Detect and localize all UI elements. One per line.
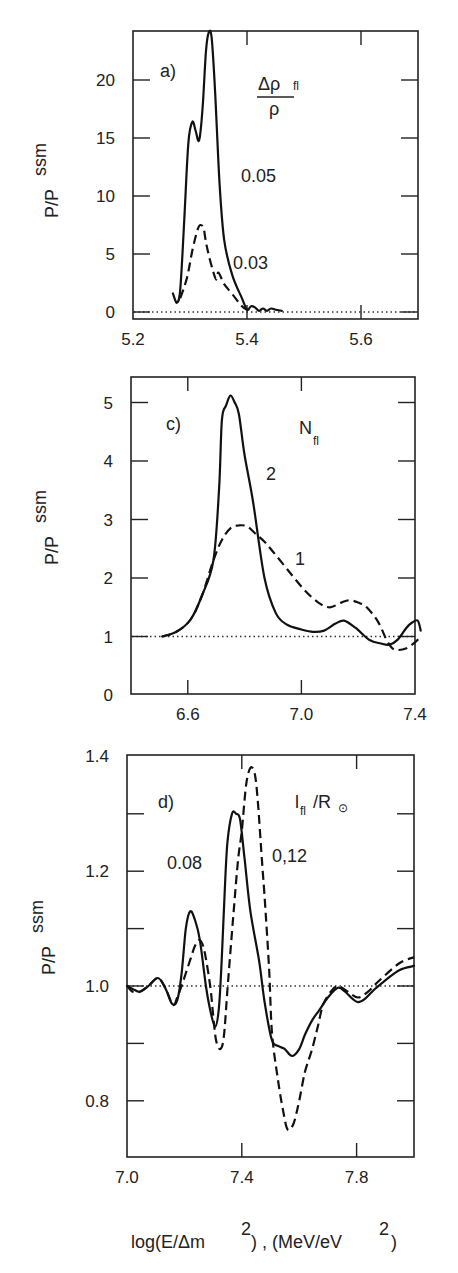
panel-d-frame <box>127 755 414 1157</box>
panel-d-ylabel: P/P ssm <box>27 900 59 975</box>
y-tick-label: 15 <box>96 129 115 148</box>
panel-d-series-0.12 <box>127 767 414 1130</box>
panel-a-ylabel: P/P ssm <box>30 143 62 218</box>
svg-text:2: 2 <box>241 1219 251 1239</box>
y-tick-label: 0.8 <box>85 1092 109 1111</box>
panel-c-legend-main: N <box>299 418 312 438</box>
panel-d: 7.07.47.80.81.01.21.4 d) l fl /R ⊙ 0.08 … <box>27 747 414 1187</box>
panel-c-ticks: 6.67.07.4012345 <box>104 377 427 724</box>
panel-c-legend-sub: fl <box>313 434 319 448</box>
panel-a-annotation-0.03: 0.03 <box>233 253 268 273</box>
y-tick-label: 4 <box>104 452 113 471</box>
x-tick-label: 7.4 <box>403 705 427 724</box>
svg-text:): ) <box>391 1232 397 1252</box>
y-tick-label: 20 <box>96 71 115 90</box>
panel-d-label: d) <box>158 792 174 812</box>
panel-a-label: a) <box>160 61 176 81</box>
x-tick-label: 6.6 <box>176 705 200 724</box>
x-axis-label: log(E/Δm 2 ) , (MeV/eV 2 ) <box>131 1219 397 1252</box>
panel-a-legend-denominator: ρ <box>269 99 279 119</box>
svg-text:ssm: ssm <box>30 490 50 523</box>
svg-text:P/P: P/P <box>42 189 62 218</box>
y-tick-label: 5 <box>104 394 113 413</box>
svg-text:2: 2 <box>379 1219 389 1239</box>
sun-symbol-icon: ⊙ <box>338 801 348 815</box>
x-tick-label: 7.8 <box>345 1168 369 1187</box>
y-tick-label: 1.4 <box>85 747 109 766</box>
panel-c-ylabel: P/P ssm <box>30 490 62 565</box>
panel-d-legend-rest: /R <box>313 792 331 812</box>
panel-a: 5.25.45.605101520 a) Δρ fl ρ 0.05 0.03 P… <box>30 31 418 349</box>
panel-c-annotation-2: 2 <box>266 464 276 484</box>
svg-text:) , (MeV/eV: ) , (MeV/eV <box>251 1232 342 1252</box>
y-tick-label: 10 <box>96 187 115 206</box>
svg-text:P/P: P/P <box>42 536 62 565</box>
panel-c-annotation-1: 1 <box>295 549 305 569</box>
panel-d-annotation-0.12: 0,12 <box>272 846 307 866</box>
y-tick-label: 1.0 <box>85 977 109 996</box>
panel-a-annotation-0.05: 0.05 <box>241 166 276 186</box>
panel-d-annotation-0.08: 0.08 <box>167 853 202 873</box>
x-tick-label: 5.4 <box>235 330 259 349</box>
y-tick-label: 5 <box>106 245 115 264</box>
svg-text:log(E/Δm: log(E/Δm <box>131 1232 205 1252</box>
panel-a-legend-sub: fl <box>293 79 299 93</box>
y-tick-label: 1.2 <box>85 862 109 881</box>
panel-d-legend-main: l <box>295 792 299 812</box>
panel-c: 6.67.07.4012345 c) N fl 2 1 P/P ssm <box>30 377 427 724</box>
panel-c-series-1 <box>162 525 421 650</box>
y-tick-label: 3 <box>104 511 113 530</box>
panel-d-legend-sub: fl <box>300 804 306 818</box>
y-tick-label: 2 <box>104 569 113 588</box>
svg-text:ssm: ssm <box>30 143 50 176</box>
figure: 5.25.45.605101520 a) Δρ fl ρ 0.05 0.03 P… <box>0 0 458 1273</box>
svg-text:P/P: P/P <box>39 946 59 975</box>
x-tick-label: 5.2 <box>121 330 145 349</box>
x-tick-label: 7.0 <box>290 705 314 724</box>
panel-a-legend-numerator: Δρ <box>258 74 280 94</box>
panel-c-label: c) <box>166 414 181 434</box>
panel-c-series-2 <box>162 395 421 644</box>
panel-d-ticks: 7.07.47.80.81.01.21.4 <box>85 747 414 1187</box>
x-tick-label: 5.6 <box>349 330 373 349</box>
y-tick-label: 1 <box>104 628 113 647</box>
svg-text:ssm: ssm <box>27 900 47 933</box>
x-tick-label: 7.4 <box>230 1168 254 1187</box>
y-tick-label: 0 <box>106 303 115 322</box>
x-tick-label: 7.0 <box>115 1168 139 1187</box>
y-tick-label: 0 <box>104 686 113 705</box>
